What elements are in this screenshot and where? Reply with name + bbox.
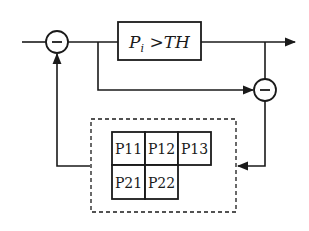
cell-label: P12 bbox=[148, 141, 175, 157]
block-diagram: Pi >TH P11 P12 P13 P21 P22 bbox=[0, 0, 309, 231]
cell-label: P11 bbox=[115, 141, 142, 157]
difference-to-buffer-arrow bbox=[238, 101, 265, 166]
threshold-label: Pi >TH bbox=[128, 32, 191, 55]
sum-junction-right bbox=[254, 79, 276, 101]
feedback-arrow bbox=[57, 54, 90, 166]
cell-label: P22 bbox=[148, 175, 175, 191]
cell-label: P21 bbox=[115, 175, 142, 191]
threshold-block: Pi >TH bbox=[118, 22, 201, 60]
cell-label: P13 bbox=[181, 141, 208, 157]
sum-junction-left bbox=[46, 31, 68, 53]
